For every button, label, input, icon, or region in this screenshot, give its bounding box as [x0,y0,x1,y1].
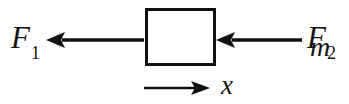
axis-arrow-x [144,78,210,98]
free-body-diagram: F1 m F2 x [0,0,349,104]
force-label-f1: F1 [11,22,39,58]
mass-box: m [145,8,216,66]
force-label-f2: F2 [307,22,335,58]
axis-label-x: x [221,72,233,99]
force-arrow-f2 [216,28,302,52]
force-subscript-f1: 1 [31,43,40,63]
force-symbol-f2: F [307,20,326,55]
force-arrow-f1 [46,28,144,52]
force-subscript-f2: 2 [327,43,336,63]
force-symbol-f1: F [11,20,30,55]
